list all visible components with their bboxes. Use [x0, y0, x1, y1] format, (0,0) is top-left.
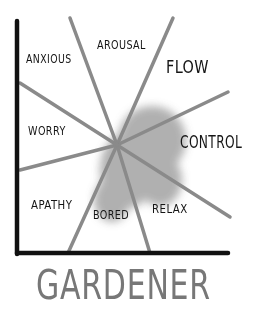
region-label-apathy: APATHY	[31, 198, 72, 212]
diagram-title: GARDENER	[36, 262, 211, 308]
region-label-arousal: AROUSAL	[97, 38, 146, 52]
region-label-control: CONTROL	[180, 131, 242, 152]
region-label-flow: FLOW	[166, 56, 209, 77]
region-label-relax: RELAX	[152, 202, 188, 216]
region-label-anxious: ANXIOUS	[26, 52, 71, 66]
region-label-worry: WORRY	[28, 124, 66, 138]
region-label-bored: BORED	[93, 208, 129, 222]
